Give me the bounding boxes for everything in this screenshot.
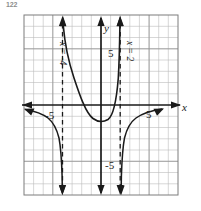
y-axis-tick-label-negative-5: -5 — [105, 159, 115, 171]
rational-function-graph: 5 -5 -5 5 y x x = -4 x = 2 — [0, 8, 201, 211]
y-axis-label: y — [103, 22, 109, 34]
y-axis-tick-label-5: 5 — [108, 47, 114, 59]
x-axis-tick-label-negative-5: -5 — [45, 109, 55, 121]
figure-container: 122 — [0, 0, 201, 211]
x-axis-tick-label-5: 5 — [146, 108, 152, 120]
x-axis-label: x — [181, 101, 187, 113]
asymptote-left-label: x = -4 — [58, 41, 68, 66]
asymptote-right-label: x = 2 — [125, 40, 135, 61]
